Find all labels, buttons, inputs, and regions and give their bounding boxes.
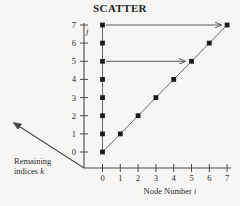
y-tick-label-1: 1: [62, 129, 76, 139]
remaining-indices-axis-label: Remaining indices k: [14, 156, 51, 176]
y-tick-label-0: 0: [62, 147, 76, 157]
x-tick-label-6: 6: [202, 173, 216, 183]
y-tick-label-2: 2: [62, 111, 76, 121]
y-tick-label-6: 6: [62, 38, 76, 48]
x-axis: [84, 164, 231, 172]
x-tick-label-1: 1: [113, 173, 127, 183]
x-tick-label-5: 5: [185, 173, 199, 183]
y-tick-label-5: 5: [62, 56, 76, 66]
x-tick-label-3: 3: [149, 173, 163, 183]
remaining-indices-line-2: indices k: [14, 166, 51, 176]
x-axis-title: Node Number i: [110, 186, 230, 196]
scatter-figure: SCATTER: [0, 0, 240, 206]
y-tick-label-7: 7: [62, 20, 76, 30]
x-axis-title-text: Node Number i: [144, 186, 197, 196]
x-tick-label-2: 2: [131, 173, 145, 183]
y-tick-label-4: 4: [62, 74, 76, 84]
x-tick-label-4: 4: [167, 173, 181, 183]
x-tick-label-7: 7: [220, 173, 234, 183]
remaining-indices-line-1: Remaining: [14, 156, 51, 166]
y-tick-label-3: 3: [62, 93, 76, 103]
x-tick-label-0: 0: [96, 173, 110, 183]
y-axis: [80, 23, 88, 168]
y-axis-title: j: [86, 26, 89, 36]
